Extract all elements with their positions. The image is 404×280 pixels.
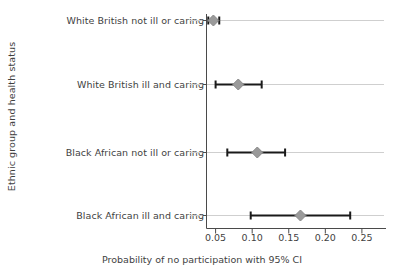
x-axis-tick-label-4: 0.25	[351, 232, 372, 243]
marker-diamond-3	[295, 210, 306, 221]
data-point-group-0	[208, 15, 219, 26]
chart-container: Ethnic group and health status White Bri…	[0, 0, 404, 280]
marker-diamond-2	[252, 147, 263, 158]
x-axis-tick-label-2: 0.15	[278, 232, 299, 243]
x-axis-tick-label-0: 0.05	[205, 232, 226, 243]
x-axis-tick-label-3: 0.20	[315, 232, 336, 243]
plot-area	[0, 0, 404, 280]
x-axis-title: Probability of no participation with 95%…	[0, 254, 404, 265]
marker-diamond-1	[233, 79, 244, 90]
data-point-group-1	[216, 79, 262, 90]
data-point-group-3	[251, 210, 350, 221]
x-axis-tick-label-1: 0.10	[242, 232, 263, 243]
data-point-group-2	[227, 147, 285, 158]
marker-diamond-0	[208, 15, 219, 26]
